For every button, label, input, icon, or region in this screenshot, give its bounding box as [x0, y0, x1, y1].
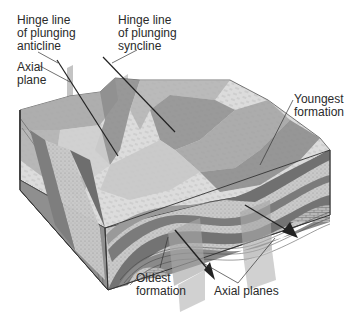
fold-block-diagram: Hinge line of plunging anticline Hinge l… — [0, 0, 354, 314]
label-youngest-formation: Youngest formation — [294, 93, 344, 119]
label-oldest-formation: Oldest formation — [136, 272, 186, 298]
label-axial-plane: Axial plane — [17, 61, 46, 87]
label-hinge-anticline: Hinge line of plunging anticline — [17, 14, 76, 53]
label-hinge-syncline: Hinge line of plunging syncline — [118, 14, 177, 53]
label-axial-planes: Axial planes — [214, 285, 279, 298]
